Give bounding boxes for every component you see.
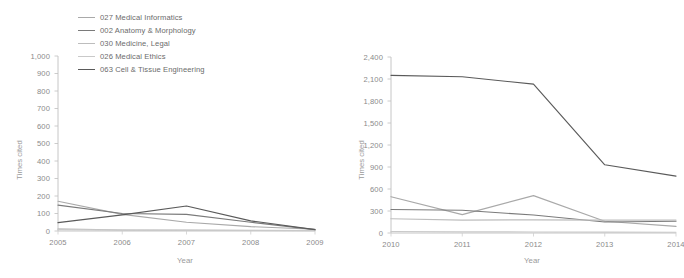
right-chart-svg: 03006009001,2001,5001,8002,1002,400 2010… [342, 0, 684, 278]
right-y-axis-line [388, 57, 392, 233]
legend-item-label: 063 Cell & Tissue Engineering [100, 63, 205, 76]
x-tick-label: 2005 [49, 238, 66, 247]
y-tick-label: 300 [37, 174, 50, 183]
y-tick-label: 900 [37, 69, 50, 78]
right-data-series-group [391, 75, 676, 232]
legend-item: 030 Medicine, Legal [78, 37, 308, 50]
chart-panel-left: 01002003004005006007008009001,000 200520… [0, 0, 342, 278]
y-tick-label: 1,500 [363, 119, 383, 128]
y-tick-label: 2,100 [363, 75, 383, 84]
data-series-line [58, 230, 315, 231]
x-tick-label: 2012 [525, 240, 542, 249]
y-tick-label: 200 [37, 192, 50, 201]
legend-item: 026 Medical Ethics [78, 50, 308, 63]
x-tick-label: 2008 [242, 238, 259, 247]
legend-item-label: 030 Medicine, Legal [100, 37, 170, 50]
y-tick-label: 900 [370, 163, 383, 172]
y-tick-label: 600 [370, 185, 383, 194]
right-y-axis-title: Times cited [357, 140, 366, 180]
legend-item: 027 Medical Informatics [78, 11, 308, 24]
right-x-axis: 20102011201220132014 [382, 233, 684, 249]
left-y-axis-line [55, 56, 59, 231]
y-tick-label: 1,000 [30, 52, 50, 61]
legend-line-swatch-icon [78, 43, 95, 44]
y-tick-label: 100 [37, 209, 50, 218]
right-x-axis-title: Year [524, 256, 540, 265]
chart-legend: 027 Medical Informatics 002 Anatomy & Mo… [78, 11, 308, 76]
x-tick-label: 2014 [667, 240, 684, 249]
legend-item-label: 027 Medical Informatics [100, 11, 183, 24]
data-series-line [391, 75, 676, 176]
left-data-series-group [58, 201, 315, 230]
data-series-line [391, 232, 676, 233]
y-tick-label: 700 [37, 104, 50, 113]
legend-item: 063 Cell & Tissue Engineering [78, 63, 308, 76]
legend-line-swatch-icon [78, 17, 95, 18]
data-series-line [391, 219, 676, 220]
y-tick-label: 300 [370, 207, 383, 216]
x-tick-label: 2006 [114, 238, 131, 247]
y-tick-label: 800 [37, 87, 50, 96]
y-tick-label: 0 [379, 229, 383, 238]
x-tick-label: 2009 [306, 238, 323, 247]
legend-item: 002 Anatomy & Morphology [78, 24, 308, 37]
x-tick-label: 2011 [454, 240, 471, 249]
left-y-axis-title: Times cited [15, 140, 24, 180]
chart-panel-right: 03006009001,2001,5001,8002,1002,400 2010… [342, 0, 684, 278]
x-tick-label: 2007 [178, 238, 195, 247]
x-tick-label: 2013 [596, 240, 613, 249]
legend-item-label: 002 Anatomy & Morphology [100, 24, 196, 37]
left-x-axis-title: Year [177, 256, 193, 265]
y-tick-label: 400 [37, 157, 50, 166]
legend-item-label: 026 Medical Ethics [100, 50, 166, 63]
y-tick-label: 2,400 [363, 53, 383, 62]
y-tick-label: 1,200 [363, 141, 383, 150]
legend-line-swatch-icon [78, 69, 95, 70]
left-y-axis-tick-labels: 01002003004005006007008009001,000 [30, 52, 50, 236]
legend-line-swatch-icon [78, 30, 95, 31]
y-tick-label: 500 [37, 139, 50, 148]
two-panel-line-chart-figure: 01002003004005006007008009001,000 200520… [0, 0, 684, 278]
left-x-axis: 20052006200720082009 [49, 231, 323, 247]
y-tick-label: 0 [46, 227, 50, 236]
legend-line-swatch-icon [78, 56, 95, 57]
y-tick-label: 1,800 [363, 97, 383, 106]
y-tick-label: 600 [37, 122, 50, 131]
x-tick-label: 2010 [382, 240, 399, 249]
right-y-axis-tick-labels: 03006009001,2001,5001,8002,1002,400 [363, 53, 383, 238]
